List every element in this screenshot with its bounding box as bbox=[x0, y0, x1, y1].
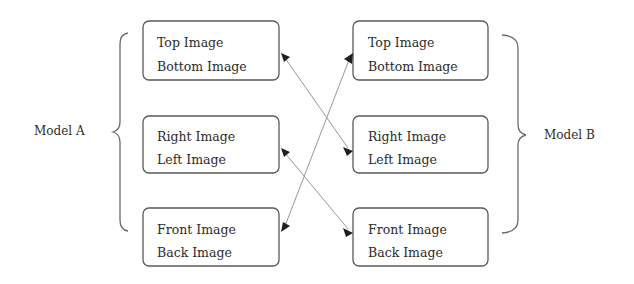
box-line2: Left Image bbox=[157, 152, 226, 167]
box-line2: Bottom Image bbox=[157, 59, 247, 74]
box-line2: Bottom Image bbox=[368, 59, 458, 74]
box-line2: Left Image bbox=[368, 152, 437, 167]
model-b-label: Model B bbox=[544, 128, 595, 142]
model-a-box-top-bottom: Top Image Bottom Image bbox=[143, 21, 279, 80]
connector-a-front-to-b-top bbox=[281, 53, 353, 232]
arrowhead-icon bbox=[281, 53, 290, 62]
arrowhead-icon bbox=[343, 147, 353, 156]
connector-a-top-to-b-right bbox=[281, 53, 353, 156]
box-line2: Back Image bbox=[368, 245, 443, 260]
model-b-brace bbox=[502, 35, 526, 233]
model-a-box-front-back: Front Image Back Image bbox=[143, 208, 279, 266]
arrowhead-icon bbox=[281, 222, 290, 232]
box-line1: Top Image bbox=[157, 35, 224, 50]
arrowhead-icon bbox=[343, 228, 353, 237]
box-line1: Front Image bbox=[368, 222, 447, 237]
box-line1: Right Image bbox=[368, 129, 446, 144]
model-a-box-right-left: Right Image Left Image bbox=[143, 116, 279, 173]
arrowhead-icon bbox=[281, 148, 290, 157]
model-a-brace bbox=[113, 33, 128, 231]
box-line2: Back Image bbox=[157, 245, 232, 260]
box-line1: Top Image bbox=[368, 35, 435, 50]
box-line1: Right Image bbox=[157, 129, 235, 144]
model-b-box-front-back: Front Image Back Image bbox=[353, 208, 488, 266]
model-mapping-diagram: Model A Top Image Bottom Image Right Ima… bbox=[0, 0, 634, 284]
model-b-box-top-bottom: Top Image Bottom Image bbox=[353, 21, 488, 80]
model-b-box-right-left: Right Image Left Image bbox=[353, 116, 488, 173]
model-a-label: Model A bbox=[34, 124, 85, 138]
box-line1: Front Image bbox=[157, 222, 236, 237]
connector-a-right-to-b-front bbox=[281, 148, 353, 237]
